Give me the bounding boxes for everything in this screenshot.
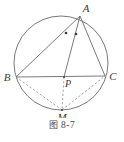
figure-container: A B C P M 图 8-7 xyxy=(0,0,124,142)
segment-BM-dashed xyxy=(16,77,62,110)
angle-bisector-dot-right-icon xyxy=(75,33,78,36)
segment-AB xyxy=(16,16,80,77)
segment-PM-dashed xyxy=(62,77,64,110)
figure-caption: 图 8-7 xyxy=(0,118,124,131)
point-label-B: B xyxy=(4,71,11,83)
point-label-A: A xyxy=(82,2,90,14)
figure-caption-prefix: 图 xyxy=(49,120,59,130)
point-label-M: M xyxy=(56,111,67,118)
geometry-diagram: A B C P M xyxy=(0,0,124,118)
circumscribed-circle xyxy=(14,16,108,110)
segment-AC xyxy=(80,16,105,76)
segment-BC xyxy=(16,76,105,77)
figure-caption-number: 8-7 xyxy=(61,120,75,130)
angle-bisector-dot-left-icon xyxy=(65,32,68,35)
segment-AP xyxy=(64,16,80,77)
point-label-P: P xyxy=(64,78,71,89)
point-label-C: C xyxy=(109,70,117,82)
